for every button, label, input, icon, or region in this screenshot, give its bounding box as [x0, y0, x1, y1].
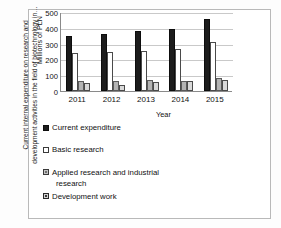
legend-swatch-icon [43, 147, 49, 153]
legend-swatch-icon [43, 125, 49, 131]
legend-item-label: Applied research and industrial [52, 168, 159, 177]
bar-group [61, 12, 95, 91]
chart-block: Millions of PLN 0100200300400500 2011201… [31, 5, 235, 130]
y-axis-tick-label: 400 [36, 25, 58, 34]
bar [222, 80, 228, 91]
legend-swatch-icon [43, 193, 49, 199]
legend-item[interactable]: Development work [43, 192, 243, 201]
chart-legend: Current expenditureBasic researchApplied… [43, 123, 243, 214]
y-axis-tick-label: 100 [36, 72, 58, 81]
x-axis-tick-label: 2014 [163, 95, 197, 104]
bar [84, 83, 90, 91]
plot-area [60, 13, 232, 92]
y-axis-tick-labels: 0100200300400500 [36, 13, 58, 92]
bar [187, 81, 193, 91]
figure-container: Current internal expenditure on research… [0, 0, 281, 228]
bar-group [199, 12, 233, 91]
x-axis-tick-labels: 20112012201320142015 [60, 95, 232, 107]
bar-group [95, 12, 129, 91]
legend-item-label: Development work [52, 192, 117, 201]
y-axis-tick-label: 200 [36, 56, 58, 65]
legend-item[interactable]: Applied research and industrial [43, 168, 243, 177]
x-axis-tick-label: 2011 [60, 95, 94, 104]
y-axis-tick-label: 500 [36, 9, 58, 18]
legend-item-label: Current expenditure [52, 123, 121, 132]
x-axis-tick-label: 2013 [129, 95, 163, 104]
bar-group [164, 12, 198, 91]
legend-item-label: Basic research [52, 145, 104, 154]
x-axis-tick-label: 2015 [198, 95, 232, 104]
bar [153, 82, 159, 91]
bar [119, 85, 125, 91]
legend-item-label-continuation: research [56, 179, 243, 188]
y-axis-tick-label: 0 [36, 88, 58, 97]
legend-swatch-icon [43, 169, 49, 175]
plot-wrapper: 0100200300400500 20112012201320142015 Ye… [60, 13, 232, 97]
bar-group [130, 12, 164, 91]
x-axis-title: Year [156, 110, 171, 119]
x-axis-tick-label: 2012 [94, 95, 128, 104]
legend-item[interactable]: Current expenditure [43, 123, 243, 132]
legend-item[interactable]: Basic research [43, 145, 243, 154]
y-axis-tick-label: 300 [36, 41, 58, 50]
